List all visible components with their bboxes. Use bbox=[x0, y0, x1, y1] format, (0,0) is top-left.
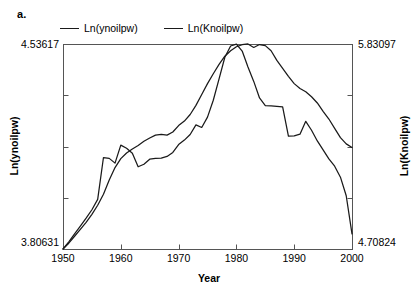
x-axis-tick-label: 1950 bbox=[51, 252, 74, 264]
y-axis-right-title: Ln(Knoilpw) bbox=[398, 96, 410, 196]
series-line-ln-ynoilpw bbox=[63, 44, 352, 249]
plot-frame bbox=[64, 45, 353, 250]
y-axis-right-max-label: 5.83097 bbox=[358, 38, 396, 50]
y-axis-right-min-label: 4.70824 bbox=[358, 236, 396, 248]
series-line-ln-knoilpw bbox=[63, 44, 352, 249]
x-axis-tick-label: 1970 bbox=[167, 252, 190, 264]
x-axis-tick-label: 2000 bbox=[340, 252, 363, 264]
x-axis-tick-label: 1990 bbox=[283, 252, 306, 264]
y-axis-left-title: Ln(ynoilpw) bbox=[8, 96, 20, 196]
figure-panel-a: a. Ln(ynoilpw) Ln(Knoilpw) 4.53617 3.806… bbox=[0, 0, 418, 296]
data-series-group bbox=[63, 44, 352, 249]
x-axis-tick-label: 1960 bbox=[109, 252, 132, 264]
axis-ticks bbox=[64, 45, 353, 250]
y-axis-left-max-label: 4.53617 bbox=[21, 38, 59, 50]
x-axis-title: Year bbox=[0, 272, 418, 284]
y-axis-left-min-label: 3.80631 bbox=[21, 236, 59, 248]
x-axis-tick-label: 1980 bbox=[225, 252, 248, 264]
